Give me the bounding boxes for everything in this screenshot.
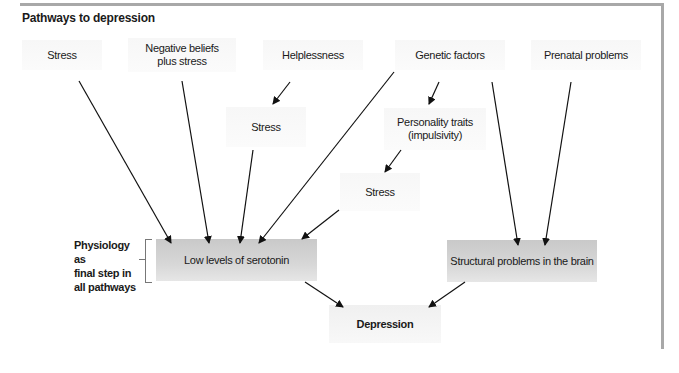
- arrow-helplessness-to-stress: [273, 82, 290, 104]
- arrow-structural-to-depression: [429, 282, 465, 307]
- arrow-genetic-to-structural: [492, 82, 518, 245]
- arrow-stress-to-serotonin: [79, 81, 171, 243]
- arrow-stress-mid-to-serotonin: [240, 150, 253, 243]
- arrow-genetic-to-personality: [429, 82, 439, 104]
- arrow-genetic-to-serotonin: [259, 72, 394, 243]
- arrow-stress-low-to-serotonin: [302, 210, 339, 239]
- arrow-serotonin-to-depression: [305, 282, 343, 307]
- arrow-personality-to-stress: [385, 150, 401, 172]
- arrows-layer: [0, 0, 679, 373]
- arrow-negbeliefs-to-serotonin: [182, 81, 209, 243]
- arrow-prenatal-to-structural: [545, 82, 571, 245]
